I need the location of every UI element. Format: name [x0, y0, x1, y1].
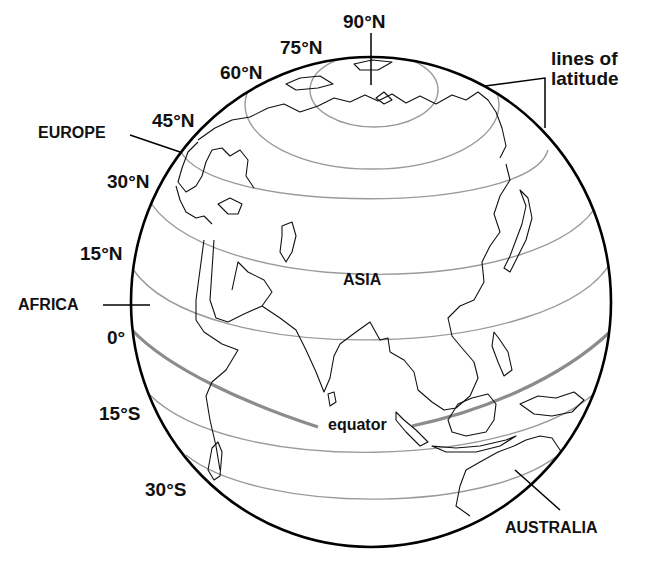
africa-coast: [196, 240, 238, 470]
latitude-45n: [180, 150, 548, 199]
latitude-30n: [146, 195, 600, 274]
lines-of-latitude-bracket: [485, 78, 545, 128]
philippines: [492, 332, 512, 376]
equator-line: [132, 330, 612, 427]
label-0: 0°: [107, 328, 125, 347]
australia-coast: [456, 412, 612, 516]
australia-pointer: [515, 470, 560, 510]
label-75n: 75°N: [280, 38, 322, 57]
label-30s: 30°S: [145, 480, 186, 499]
label-lines-of-latitude: lines of latitude: [551, 49, 619, 89]
new-guinea: [520, 392, 584, 416]
europe-pointer: [130, 135, 180, 152]
label-australia: AUSTRALIA: [505, 520, 597, 536]
latitude-75n: [310, 53, 438, 127]
label-europe: EUROPE: [38, 125, 106, 141]
europe-coast: [178, 142, 254, 192]
label-15s: 15°S: [99, 404, 140, 423]
sumatra: [396, 412, 428, 446]
lines-of-latitude-line1: lines of: [551, 49, 619, 69]
india-coast: [262, 306, 390, 392]
label-africa: AFRICA: [18, 297, 78, 313]
madagascar: [208, 442, 222, 480]
southeast-asia-coast: [390, 164, 510, 410]
arabia-coast: [210, 240, 272, 322]
label-60n: 60°N: [220, 63, 262, 82]
sri-lanka: [328, 392, 336, 406]
latitude-30s: [186, 448, 566, 499]
label-90n: 90°N: [343, 12, 385, 31]
globe-outline: [131, 57, 611, 547]
japan: [504, 190, 532, 272]
label-15n: 15°N: [80, 244, 122, 263]
lines-of-latitude-line2: latitude: [551, 69, 619, 89]
label-30n: 30°N: [107, 172, 149, 191]
label-asia: ASIA: [343, 272, 381, 288]
label-equator: equator: [328, 417, 387, 433]
label-45n: 45°N: [152, 111, 194, 130]
coastlines: [176, 60, 612, 516]
